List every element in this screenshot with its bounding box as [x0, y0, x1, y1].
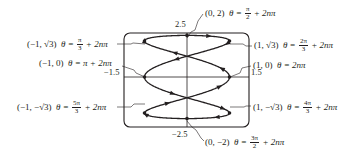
coord-label: (−1, 0)	[39, 58, 64, 68]
direction-arrow-icon	[173, 56, 180, 62]
theta-fraction: 4π3	[303, 100, 312, 115]
direction-arrow-icon	[214, 115, 220, 120]
theta-label: θ = π + 2nπ	[68, 58, 112, 68]
curve-point	[228, 39, 232, 43]
theta-label: θ =	[56, 102, 69, 112]
leader-left	[122, 66, 145, 77]
coord-label: (1, −√3)	[253, 102, 283, 112]
theta-suffix: + 2nπ	[86, 39, 108, 49]
annotation-lower-right: (1, −√3) θ = 4π3 + 2nπ	[253, 100, 337, 115]
curve-point	[185, 34, 189, 38]
curve-point	[143, 39, 147, 43]
annotation-upper-left: (−1, √3) θ = π3 + 2nπ	[27, 37, 108, 52]
theta-suffix: + 2nπ	[262, 137, 284, 147]
annotation-left: (−1, 0) θ = π + 2nπ	[39, 58, 112, 68]
coord-label: (−1, √3)	[27, 39, 57, 49]
coord-label: (−1, −√3)	[17, 102, 52, 112]
theta-fraction: 3π2	[250, 135, 259, 150]
theta-label: θ =	[234, 137, 247, 147]
theta-label: θ =	[229, 8, 242, 18]
theta-label: θ =	[287, 102, 300, 112]
theta-suffix: + 2nπ	[84, 102, 106, 112]
curve-point	[143, 111, 147, 115]
annotation-top: (0, 2) θ = π2 + 2nπ	[205, 6, 276, 21]
curve-point	[228, 111, 232, 115]
annotation-bottom: (0, −2) θ = 3π2 + 2nπ	[205, 135, 284, 150]
leader-lower-left	[117, 104, 145, 107]
theta-suffix: + 2nπ	[311, 40, 333, 50]
annotation-right: (1, 0) θ = 2nπ	[253, 60, 306, 70]
leader-lower-right	[230, 106, 251, 107]
direction-arrow-icon	[218, 65, 225, 72]
coord-label: (1, 0)	[253, 60, 273, 70]
leader-right	[230, 66, 251, 77]
leader-bottom	[187, 121, 204, 141]
coord-label: (0, −2)	[205, 137, 230, 147]
leader-top	[187, 14, 203, 38]
direction-arrow-icon	[206, 34, 212, 39]
direction-arrow-icon	[220, 106, 227, 112]
y-max-label: 2.5	[175, 20, 186, 29]
theta-label: θ =	[283, 40, 296, 50]
annotation-lower-left: (−1, −√3) θ = 5π3 + 2nπ	[17, 100, 106, 115]
coord-label: (1, √3)	[254, 40, 278, 50]
x-min-label: −1.5	[104, 68, 119, 77]
theta-suffix: + 2nπ	[254, 8, 276, 18]
theta-fraction: 5π3	[72, 100, 81, 115]
theta-fraction: 2π3	[299, 38, 308, 53]
theta-label: θ = 2nπ	[277, 60, 306, 70]
direction-arrow-icon	[170, 91, 177, 97]
coord-label: (0, 2)	[205, 8, 225, 18]
theta-fraction: π3	[77, 37, 83, 52]
direction-arrow-icon	[216, 83, 223, 89]
curve-point	[185, 117, 189, 121]
theta-suffix: + 2nπ	[315, 102, 337, 112]
leader-upper-left	[117, 43, 145, 44]
theta-label: θ =	[61, 39, 74, 49]
y-min-label: −2.5	[172, 130, 187, 139]
theta-fraction: π2	[245, 6, 251, 21]
annotation-upper-right: (1, √3) θ = 2π3 + 2nπ	[254, 38, 333, 53]
